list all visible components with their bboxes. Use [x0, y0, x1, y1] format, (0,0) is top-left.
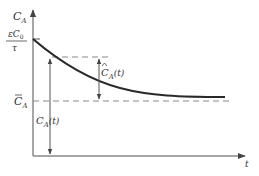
decay-curve: [33, 39, 225, 97]
y-axis-label: CA: [13, 10, 26, 25]
svg-text:τ: τ: [12, 43, 18, 53]
concentration-diagram: CA εC0 τ CA CA(t) CA(t) t: [0, 0, 259, 176]
svg-text:εC0: εC0: [8, 29, 24, 40]
svg-text:CA: CA: [14, 95, 27, 110]
total-label: CA(t): [36, 115, 60, 129]
diagram-canvas: CA εC0 τ CA CA(t) CA(t) t: [0, 0, 259, 176]
svg-text:CA(t): CA(t): [101, 67, 125, 81]
x-axis-label: t: [245, 159, 249, 169]
deviation-label: CA(t): [101, 63, 125, 81]
initial-value-label: εC0 τ: [6, 29, 27, 53]
steady-state-label: CA: [14, 95, 27, 110]
